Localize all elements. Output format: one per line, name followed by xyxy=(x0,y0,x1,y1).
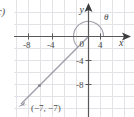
grid-lines xyxy=(14,0,134,117)
y-axis-label: y xyxy=(79,4,85,15)
y-tick-label-neg4: -4 xyxy=(76,56,84,66)
x-axis-label: x xyxy=(118,37,124,48)
origin-label: 0 xyxy=(80,39,85,49)
terminal-ray-line xyxy=(21,37,89,105)
theta-label: θ xyxy=(104,12,109,22)
plotted-point-label: (−7, −7) xyxy=(31,103,61,113)
x-tick-label-neg8: -8 xyxy=(23,40,31,50)
x-axis xyxy=(14,33,131,41)
angle-standard-position-figure: c) xyxy=(0,0,134,117)
plotted-point-marker xyxy=(38,84,41,87)
coordinate-plane: x y θ -8 -4 4 0 -4 -8 (−7, −7) xyxy=(0,0,134,117)
x-tick-label-4: 4 xyxy=(98,40,103,50)
x-tick-label-neg4: -4 xyxy=(47,40,55,50)
y-axis xyxy=(85,3,93,117)
y-tick-label-neg8: -8 xyxy=(76,80,84,90)
